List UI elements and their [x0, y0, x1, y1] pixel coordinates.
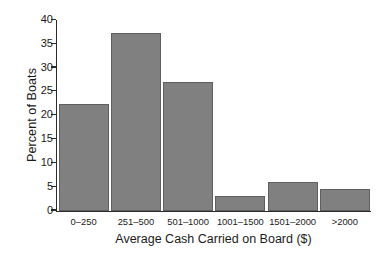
x-axis-tick-label: 251–500: [110, 216, 162, 227]
plot-area: 0510152025303540 0–250251–500501–1000100…: [56, 20, 371, 212]
bar: [320, 189, 370, 210]
y-axis-tick-label: 30: [41, 61, 53, 73]
x-axis-line: [56, 211, 371, 212]
x-axis-tick-label: 0–250: [58, 216, 110, 227]
y-axis-tick-label: 0: [47, 204, 53, 216]
y-axis-tick-label: 20: [41, 108, 53, 120]
x-axis-tick-label: 1501–2000: [267, 216, 319, 227]
y-axis-tick-label: 35: [41, 37, 53, 49]
y-axis-tick-label: 10: [41, 156, 53, 168]
y-axis-line: [56, 20, 57, 212]
bar-chart-figure: Percent of Boats 0510152025303540 0–2502…: [0, 0, 379, 253]
y-axis-tick-label: 25: [41, 84, 53, 96]
x-axis-tick-label: >2000: [319, 216, 371, 227]
bar: [215, 196, 265, 210]
bar: [163, 82, 213, 211]
bar: [268, 182, 318, 211]
bar: [111, 33, 161, 211]
bar: [59, 104, 109, 210]
y-axis-title: Percent of Boats: [25, 35, 39, 195]
x-axis-title: Average Cash Carried on Board ($): [56, 232, 371, 246]
x-axis-tick-label: 1001–1500: [214, 216, 266, 227]
y-axis-tick-label: 15: [41, 132, 53, 144]
y-axis-tick-label: 5: [47, 180, 53, 192]
y-axis-tick-label: 40: [41, 13, 53, 25]
x-axis-tick-label: 501–1000: [162, 216, 214, 227]
